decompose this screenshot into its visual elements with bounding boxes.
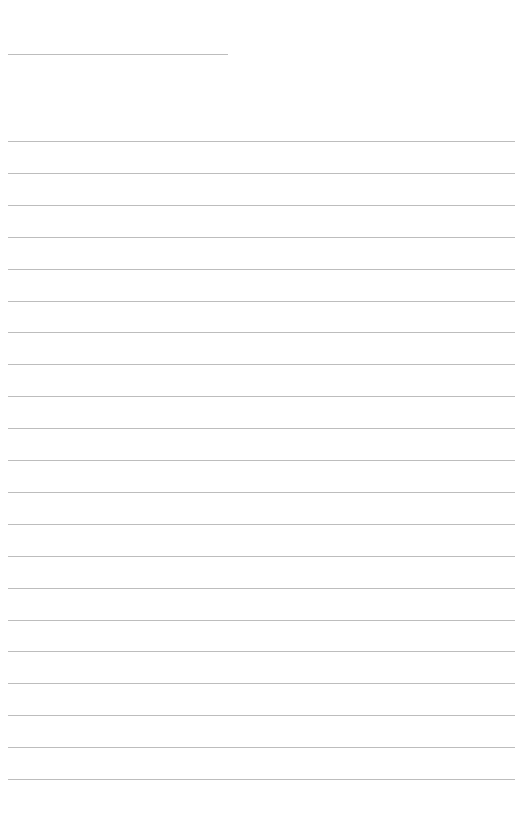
ruled-line <box>8 779 515 780</box>
ruled-line <box>8 556 515 557</box>
ruled-line <box>8 747 515 748</box>
ruled-line <box>8 269 515 270</box>
ruled-line <box>8 237 515 238</box>
ruled-line <box>8 301 515 302</box>
ruled-line <box>8 620 515 621</box>
ruled-line <box>8 651 515 652</box>
ruled-line <box>8 332 515 333</box>
ruled-line <box>8 460 515 461</box>
ruled-line <box>8 141 515 142</box>
ruled-line <box>8 492 515 493</box>
ruled-page <box>0 0 523 814</box>
ruled-line <box>8 588 515 589</box>
ruled-line <box>8 715 515 716</box>
ruled-line <box>8 364 515 365</box>
ruled-line <box>8 205 515 206</box>
ruled-line <box>8 524 515 525</box>
ruled-lines-container <box>8 0 515 814</box>
ruled-line <box>8 428 515 429</box>
ruled-line <box>8 396 515 397</box>
ruled-line <box>8 173 515 174</box>
ruled-line <box>8 683 515 684</box>
